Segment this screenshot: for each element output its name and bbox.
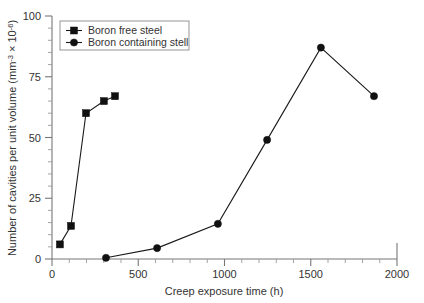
legend-label-boron-free-steel: Boron free steel — [88, 24, 162, 36]
x-tick-labels: 0 500 1000 1500 2000 — [49, 268, 409, 280]
series-boron-containing-stell — [102, 44, 377, 261]
y-axis-title-mid: × 10 — [6, 30, 18, 55]
data-point-marker — [264, 136, 271, 143]
x-tick-label-2000: 2000 — [385, 268, 409, 280]
y-tick-labels: 0 25 50 75 100 — [23, 10, 41, 265]
data-point-marker — [102, 254, 109, 261]
y-axis-title-end: ) — [6, 20, 18, 24]
y-axis-title-sup2: -6 — [6, 24, 15, 31]
y-axis-title-sup1: -3 — [6, 55, 15, 62]
legend-label-boron-containing-stell: Boron containing stell — [88, 36, 188, 48]
circle-marker-icon — [70, 39, 77, 46]
chart-legend: Boron free steel Boron containing stell — [60, 21, 189, 50]
data-point-marker — [112, 93, 119, 100]
data-point-marker — [83, 110, 90, 117]
data-point-marker — [68, 222, 75, 229]
y-tick-label-0: 0 — [35, 253, 41, 265]
data-point-marker — [154, 245, 161, 252]
y-tick-label-75: 75 — [29, 71, 41, 83]
y-axis-title-main: Number of cavities per unit volume (mm — [6, 62, 18, 256]
data-point-marker — [100, 98, 107, 105]
x-tick-label-1500: 1500 — [299, 268, 323, 280]
x-tick-label-1000: 1000 — [212, 268, 236, 280]
x-axis-title-text: Creep exposure time (h) — [165, 285, 284, 297]
chart-figure: 0 25 50 75 100 0 500 1000 1500 2000 Cree… — [0, 0, 424, 303]
line-chart: 0 25 50 75 100 0 500 1000 1500 2000 Cree… — [0, 0, 424, 303]
x-axis-title: Creep exposure time (h) — [165, 285, 284, 297]
data-point-marker — [317, 44, 324, 51]
series-boron-free-steel — [56, 93, 118, 248]
y-axis-title: Number of cavities per unit volume (mm-3… — [6, 20, 19, 256]
x-tick-label-0: 0 — [49, 268, 55, 280]
data-point-marker — [214, 220, 221, 227]
y-tick-label-50: 50 — [29, 132, 41, 144]
axis-frame — [52, 16, 397, 259]
y-tick-label-100: 100 — [23, 10, 41, 22]
x-tick-label-500: 500 — [129, 268, 147, 280]
data-point-marker — [56, 241, 63, 248]
y-tick-label-25: 25 — [29, 192, 41, 204]
series-line-boron-containing-stell — [106, 48, 374, 258]
y-axis-ticks — [45, 16, 52, 259]
data-point-marker — [370, 93, 377, 100]
square-marker-icon — [71, 27, 78, 34]
